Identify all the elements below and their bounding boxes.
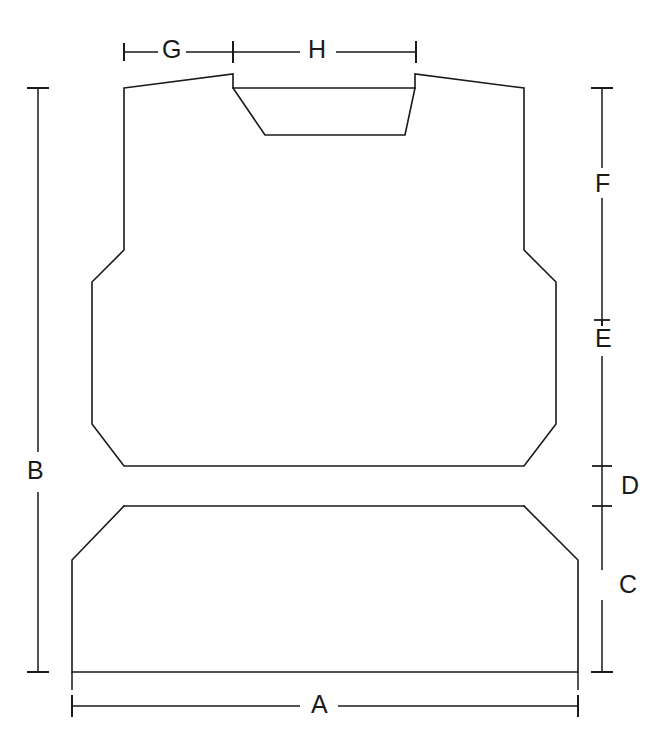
dimension-label-B: B [27,458,44,483]
dimension-label-H: H [308,37,327,62]
dimension-label-D: D [621,473,640,498]
dimension-lines [27,41,613,717]
dimension-label-C: C [619,572,638,597]
dimension-label-A: A [311,692,328,717]
garment-technical-drawing [0,0,672,754]
dimension-F [591,88,613,320]
dimension-C [591,506,613,672]
neckline-outline [233,88,415,135]
garment-outline [72,74,578,672]
lower-body-outline [72,506,578,672]
dimension-label-G: G [162,37,182,62]
dimension-D [592,466,612,506]
drawing-sheet: A B C D E F G H [0,0,672,754]
dimension-B [27,88,49,672]
extension-lines [72,672,578,690]
dimension-label-E: E [595,326,612,351]
upper-body-outline [92,74,556,466]
dimension-label-F: F [595,171,611,196]
